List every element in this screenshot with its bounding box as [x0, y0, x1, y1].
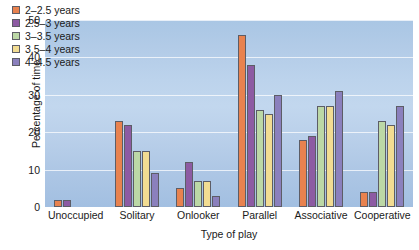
bar[interactable]	[194, 181, 202, 207]
bar[interactable]	[256, 110, 264, 207]
bar-group	[290, 20, 351, 207]
y-axis-tick-label: 10	[14, 164, 40, 175]
bar[interactable]	[274, 95, 282, 207]
legend-label: 2–2.5 years	[25, 4, 80, 16]
x-axis-tick-label: Onlooker	[168, 209, 229, 221]
bar-group	[352, 20, 413, 207]
x-axis-tick-label: Unoccupied	[45, 209, 106, 221]
bar[interactable]	[142, 151, 150, 207]
bar[interactable]	[387, 125, 395, 207]
bar-group	[168, 20, 229, 207]
bar[interactable]	[369, 192, 377, 207]
bar[interactable]	[326, 106, 334, 207]
y-axis-tick-label: 0	[14, 202, 40, 213]
legend-label: 4–4.5 years	[25, 56, 80, 68]
bar[interactable]	[360, 192, 368, 207]
legend: 2–2.5 years2.5–3 years3–3.5 years3.5–4 y…	[12, 4, 80, 68]
x-axis-tick-label: Associative	[290, 209, 351, 221]
x-axis-tick-label: Parallel	[229, 209, 290, 221]
bar[interactable]	[63, 200, 71, 207]
bar[interactable]	[335, 91, 343, 207]
bar[interactable]	[203, 181, 211, 207]
x-axis-tick-label: Cooperative	[352, 209, 413, 221]
x-axis-tick-label: Solitary	[106, 209, 167, 221]
legend-item[interactable]: 3–3.5 years	[12, 30, 80, 42]
legend-swatch-icon	[12, 6, 20, 14]
bar[interactable]	[247, 65, 255, 207]
legend-swatch-icon	[12, 58, 20, 66]
bar-chart-figure: Percentage of time 01020304050 Unoccupie…	[0, 0, 419, 250]
bar[interactable]	[54, 200, 62, 207]
legend-label: 3–3.5 years	[25, 30, 80, 42]
legend-swatch-icon	[12, 19, 20, 27]
x-axis-tick-labels: UnoccupiedSolitaryOnlookerParallelAssoci…	[45, 209, 413, 221]
bar[interactable]	[212, 196, 220, 207]
bar[interactable]	[265, 114, 273, 208]
bar[interactable]	[317, 106, 325, 207]
bar[interactable]	[185, 162, 193, 207]
y-axis-tick-label: 30	[14, 90, 40, 101]
legend-swatch-icon	[12, 45, 20, 53]
bar[interactable]	[308, 136, 316, 207]
legend-item[interactable]: 4–4.5 years	[12, 56, 80, 68]
bar[interactable]	[396, 106, 404, 207]
y-axis-tick-label: 20	[14, 127, 40, 138]
x-axis-title: Type of play	[45, 228, 413, 240]
legend-swatch-icon	[12, 32, 20, 40]
bar[interactable]	[115, 121, 123, 207]
legend-item[interactable]: 2.5–3 years	[12, 17, 80, 29]
bar[interactable]	[378, 121, 386, 207]
legend-label: 3.5–4 years	[25, 43, 80, 55]
legend-item[interactable]: 3.5–4 years	[12, 43, 80, 55]
bar[interactable]	[176, 188, 184, 207]
bar-group	[106, 20, 167, 207]
bar[interactable]	[299, 140, 307, 207]
bar-groups	[45, 20, 413, 207]
plot-area	[45, 20, 413, 207]
bar[interactable]	[124, 125, 132, 207]
legend-label: 2.5–3 years	[25, 17, 80, 29]
bar[interactable]	[151, 173, 159, 207]
bar[interactable]	[133, 151, 141, 207]
bar[interactable]	[238, 35, 246, 207]
legend-item[interactable]: 2–2.5 years	[12, 4, 80, 16]
bar-group	[229, 20, 290, 207]
